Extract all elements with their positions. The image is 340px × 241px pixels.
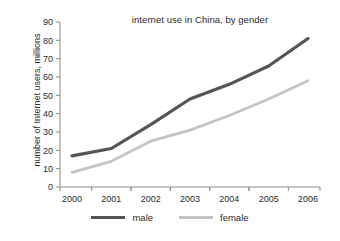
x-tick-label: 2005 bbox=[259, 194, 279, 204]
y-axis: 0102030405060708090 bbox=[43, 17, 60, 192]
y-tick-label: 30 bbox=[43, 127, 53, 137]
x-tick-label: 2004 bbox=[219, 194, 239, 204]
chart-legend: male female bbox=[0, 212, 340, 223]
y-tick-label: 70 bbox=[43, 54, 53, 64]
y-tick-label: 60 bbox=[43, 72, 53, 82]
y-tick-label: 20 bbox=[43, 146, 53, 156]
legend-label-male: male bbox=[132, 212, 153, 223]
x-tick-label: 2003 bbox=[180, 194, 200, 204]
y-tick-label: 80 bbox=[43, 36, 53, 46]
x-axis: 2000200120022003200420052006 bbox=[60, 187, 320, 204]
x-tick-label: 2001 bbox=[101, 194, 121, 204]
legend-item-female[interactable]: female bbox=[179, 212, 249, 223]
legend-label-female: female bbox=[220, 212, 249, 223]
x-tick-label: 2000 bbox=[62, 194, 82, 204]
series-line-female bbox=[72, 81, 308, 173]
plot-area: 0102030405060708090 20002001200220032004… bbox=[0, 0, 340, 241]
y-tick-label: 0 bbox=[48, 182, 53, 192]
x-tick-label: 2006 bbox=[298, 194, 318, 204]
x-tick-label: 2002 bbox=[141, 194, 161, 204]
legend-item-male[interactable]: male bbox=[91, 212, 153, 223]
chart-container: internet use in China, by gender number … bbox=[0, 0, 340, 241]
y-tick-label: 10 bbox=[43, 164, 53, 174]
y-tick-label: 90 bbox=[43, 17, 53, 27]
y-tick-label: 40 bbox=[43, 109, 53, 119]
data-series-group bbox=[72, 39, 308, 173]
legend-swatch-male-icon bbox=[91, 216, 125, 219]
legend-swatch-female-icon bbox=[179, 216, 213, 219]
y-tick-label: 50 bbox=[43, 91, 53, 101]
